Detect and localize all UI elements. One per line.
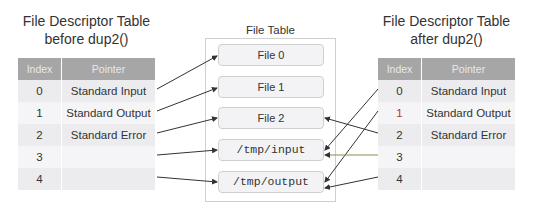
arrow-after-fd1	[325, 111, 378, 182]
arrow-before-fd0	[157, 56, 217, 89]
arrow-after-fd4	[325, 177, 378, 188]
arrows-layer	[0, 0, 533, 211]
arrow-before-fd2	[157, 118, 217, 133]
arrow-before-fd4	[157, 177, 217, 182]
arrow-before-fd1	[157, 88, 217, 111]
arrow-before-fd3	[157, 150, 217, 155]
arrow-after-fd0	[325, 89, 378, 150]
